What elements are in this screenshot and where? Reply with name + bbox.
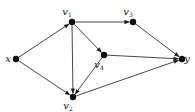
edge-x-v2 — [19, 61, 70, 95]
edge-v3-y — [136, 24, 179, 57]
edge-v1-v4 — [74, 24, 101, 52]
node-label-v1: v1 — [62, 6, 71, 18]
node-v1 — [69, 19, 75, 25]
node-x — [13, 56, 19, 62]
edge-v4-y — [107, 55, 178, 59]
node-v2 — [70, 94, 76, 100]
edge-v2-y — [76, 60, 178, 96]
node-v3 — [130, 19, 136, 25]
node-label-v4: v4 — [94, 59, 104, 71]
node-label-x: x — [5, 53, 11, 64]
node-label-y: y — [183, 53, 190, 64]
edge-v1-v2 — [72, 25, 73, 93]
edge-x-v1 — [19, 24, 69, 57]
node-v4 — [101, 52, 107, 58]
node-label-v3: v3 — [123, 6, 133, 18]
node-label-v2: v2 — [63, 100, 73, 112]
directed-graph: xv1v3v4v2y — [0, 0, 195, 112]
